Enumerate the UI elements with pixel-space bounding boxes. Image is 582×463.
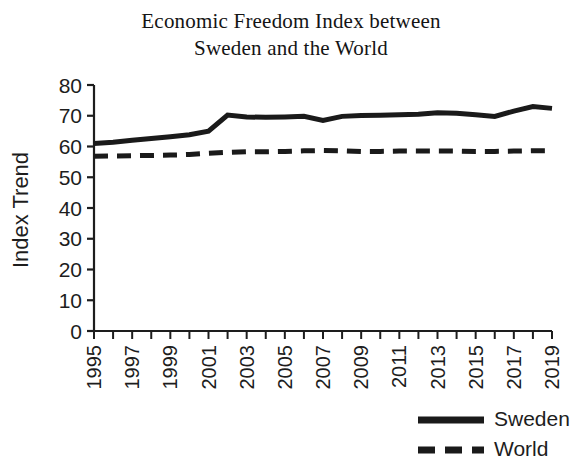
x-axis-tick-label: 1999: [159, 345, 181, 390]
chart-plot-area: Index Trend 01020304050607080 1995199719…: [0, 0, 582, 463]
legend-label-sweden: Sweden: [494, 407, 570, 430]
y-axis-tick-label: 40: [59, 197, 82, 220]
chart-legend: SwedenWorld: [418, 407, 570, 460]
legend-label-world: World: [494, 437, 548, 460]
x-axis-tick-label: 2019: [541, 345, 563, 390]
x-axis-tick-label: 2007: [312, 345, 334, 390]
x-axis-tick-label: 1997: [121, 345, 143, 390]
x-axis-tick-label: 2015: [465, 345, 487, 390]
data-series-group: [94, 107, 552, 157]
x-axis-tick-label: 1995: [83, 345, 105, 390]
y-axis-tick-label: 80: [59, 74, 82, 97]
x-axis-tick-label: 2001: [198, 345, 220, 390]
y-axis-tick-label: 10: [59, 289, 82, 312]
x-axis-ticks: [94, 331, 552, 339]
x-axis-tick-label: 2017: [503, 345, 525, 390]
economic-freedom-index-chart: Economic Freedom Index between Sweden an…: [0, 0, 582, 463]
x-axis-tick-labels: 1995199719992001200320052007200920112013…: [83, 345, 563, 390]
y-axis-tick-label: 30: [59, 227, 82, 250]
y-axis-tick-label: 50: [59, 166, 82, 189]
x-axis-tick-label: 2009: [350, 345, 372, 390]
y-axis-tick-label: 20: [59, 258, 82, 281]
y-axis-tick-label: 0: [70, 320, 82, 343]
y-axis-tick-label: 60: [59, 135, 82, 158]
series-line-sweden: [94, 107, 552, 144]
y-axis-title: Index Trend: [8, 152, 33, 268]
x-axis-tick-label: 2005: [274, 345, 296, 390]
x-axis-tick-label: 2003: [236, 345, 258, 390]
x-axis-tick-label: 2013: [427, 345, 449, 390]
x-axis-tick-label: 2011: [388, 345, 410, 388]
y-axis-tick-label: 70: [59, 104, 82, 127]
y-axis-tick-labels: 01020304050607080: [59, 74, 82, 343]
series-line-world: [94, 151, 552, 157]
